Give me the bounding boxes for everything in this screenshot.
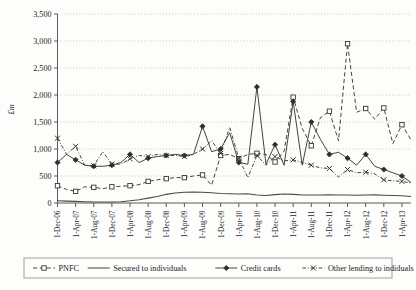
data-point-marker bbox=[381, 167, 386, 172]
line-chart: 05001,0001,5002,0002,5003,0003,500£m1-De… bbox=[0, 0, 416, 290]
data-point-marker bbox=[399, 179, 404, 184]
y-tick-label: 0 bbox=[47, 199, 51, 208]
x-tick-label: 1-Aug-08 bbox=[144, 210, 153, 239]
x-tick-label: 1-Dec-08 bbox=[162, 210, 171, 238]
x-tick-label: 1-Apr-08 bbox=[126, 210, 135, 237]
legend-label: PNFC bbox=[59, 264, 80, 273]
x-axis-ticks bbox=[58, 203, 402, 207]
y-axis-labels: 05001,0001,5002,0002,5003,0003,500 bbox=[33, 10, 51, 208]
series-pnfc bbox=[55, 42, 411, 194]
data-point-marker bbox=[146, 179, 150, 183]
data-point-marker bbox=[73, 157, 78, 162]
data-point-marker bbox=[309, 144, 313, 148]
data-point-marker bbox=[327, 152, 332, 157]
series-line bbox=[58, 87, 412, 183]
x-tick-label: 1-Aug-12 bbox=[362, 210, 371, 239]
y-tick-label: 1,500 bbox=[33, 118, 51, 127]
y-axis-title: £m bbox=[7, 104, 16, 114]
x-tick-label: 1-Aug-11 bbox=[307, 210, 316, 238]
series-line bbox=[58, 44, 412, 192]
data-point-marker bbox=[291, 157, 296, 162]
x-tick-label: 1-Dec-07 bbox=[108, 210, 117, 238]
data-point-marker bbox=[92, 185, 96, 189]
x-tick-label: 1-Apr-12 bbox=[343, 210, 352, 237]
legend-label: Credit cards bbox=[241, 264, 281, 273]
x-tick-label: 1-Dec-06 bbox=[53, 210, 62, 238]
data-point-marker bbox=[400, 123, 404, 127]
data-point-marker bbox=[327, 166, 332, 171]
series-credit-cards bbox=[55, 84, 411, 182]
x-tick-label: 1-Apr-11 bbox=[289, 210, 298, 237]
data-point-marker bbox=[128, 184, 132, 188]
legend-marker bbox=[42, 266, 46, 270]
y-tick-label: 1,000 bbox=[33, 145, 51, 154]
data-point-marker bbox=[200, 124, 205, 129]
data-point-marker bbox=[273, 154, 278, 159]
series-line bbox=[58, 192, 412, 202]
legend-label: Secured to individuals bbox=[113, 264, 186, 273]
y-gridlines bbox=[58, 14, 412, 176]
data-point-marker bbox=[164, 177, 168, 181]
data-point-marker bbox=[382, 106, 386, 110]
x-axis-labels: 1-Dec-061-Apr-071-Aug-071-Dec-071-Apr-08… bbox=[53, 210, 406, 239]
data-point-marker bbox=[309, 119, 314, 124]
x-tick-label: 1-Dec-09 bbox=[217, 210, 226, 238]
series-secured-to-individuals bbox=[58, 192, 412, 202]
x-tick-label: 1-Aug-10 bbox=[253, 210, 262, 239]
x-tick-label: 1-Apr-13 bbox=[398, 210, 407, 237]
y-tick-label: 2,000 bbox=[33, 91, 51, 100]
y-tick-label: 3,000 bbox=[33, 37, 51, 46]
y-tick-label: 2,500 bbox=[33, 64, 51, 73]
chart-legend: PNFCSecured to individualsCredit cardsOt… bbox=[24, 258, 414, 278]
series-line bbox=[58, 127, 412, 183]
x-tick-label: 1-Dec-11 bbox=[325, 210, 334, 238]
y-axis-ticks bbox=[54, 14, 58, 203]
y-tick-label: 3,500 bbox=[33, 10, 51, 19]
x-tick-label: 1-Dec-10 bbox=[271, 210, 280, 238]
x-tick-label: 1-Aug-07 bbox=[90, 210, 99, 239]
x-tick-label: 1-Apr-09 bbox=[180, 210, 189, 237]
data-point-marker bbox=[327, 109, 331, 113]
x-tick-label: 1-Apr-07 bbox=[72, 210, 81, 237]
data-point-marker bbox=[55, 184, 59, 188]
data-point-marker bbox=[254, 84, 259, 89]
data-point-marker bbox=[272, 142, 277, 147]
data-point-marker bbox=[363, 106, 367, 110]
chart-container: 05001,0001,5002,0002,5003,0003,500£m1-De… bbox=[0, 0, 416, 290]
data-point-marker bbox=[200, 173, 204, 177]
data-point-marker bbox=[273, 160, 277, 164]
data-point-marker bbox=[182, 153, 187, 158]
legend-label: Other lending to indiduals bbox=[328, 264, 414, 273]
data-point-marker bbox=[73, 144, 78, 149]
x-tick-label: 1-Apr-10 bbox=[235, 210, 244, 237]
data-point-marker bbox=[182, 175, 186, 179]
data-point-marker bbox=[110, 185, 114, 189]
x-tick-label: 1-Aug-09 bbox=[198, 210, 207, 239]
data-point-marker bbox=[345, 167, 350, 172]
x-tick-label: 1-Dec-12 bbox=[380, 210, 389, 238]
y-tick-label: 500 bbox=[39, 172, 51, 181]
data-point-marker bbox=[309, 163, 314, 168]
data-point-marker bbox=[73, 189, 77, 193]
data-point-marker bbox=[345, 42, 349, 46]
